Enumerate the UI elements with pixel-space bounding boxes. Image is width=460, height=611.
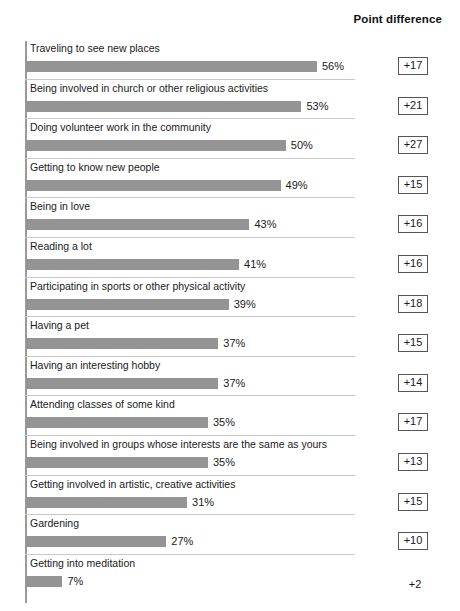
bar-track: 50% — [26, 140, 446, 151]
bar-row: Traveling to see new places56%+17 — [0, 40, 460, 80]
bar-row-label: Being involved in groups whose interests… — [30, 438, 327, 451]
bar-track: 35% — [26, 457, 446, 468]
bar-row-label: Attending classes of some kind — [30, 398, 175, 411]
bar-value-label: 49% — [286, 178, 308, 193]
bar-row: Being involved in church or other religi… — [0, 80, 460, 120]
chart-header: Point difference — [0, 0, 460, 40]
bar — [26, 61, 317, 72]
point-difference-value: +13 — [398, 453, 428, 471]
bar — [26, 536, 166, 547]
bar-value-label: 43% — [254, 217, 276, 232]
bar-row: Being in love43%+16 — [0, 198, 460, 238]
bar — [26, 180, 281, 191]
point-difference-value: +10 — [398, 532, 428, 550]
bar-row-label: Traveling to see new places — [30, 42, 160, 55]
bar-value-label: 31% — [192, 495, 214, 510]
bar-track: 39% — [26, 299, 446, 310]
bar-value-label: 41% — [244, 257, 266, 272]
bar-track: 35% — [26, 417, 446, 428]
bar-value-label: 35% — [213, 415, 235, 430]
bar-row: Getting into meditation7%+2 — [0, 555, 460, 595]
bar-track: 43% — [26, 219, 446, 230]
bar-value-label: 37% — [223, 376, 245, 391]
bar — [26, 101, 301, 112]
bar-track: 31% — [26, 497, 446, 508]
bar-track: 7% — [26, 576, 446, 587]
bar-row: Attending classes of some kind35%+17 — [0, 396, 460, 436]
point-difference-value: +17 — [398, 57, 428, 75]
bar-track: 49% — [26, 180, 446, 191]
bar-row-label: Participating in sports or other physica… — [30, 280, 245, 293]
bar-row-label: Having an interesting hobby — [30, 359, 160, 372]
point-difference-value: +16 — [398, 255, 428, 273]
bar-track: 27% — [26, 536, 446, 547]
point-difference-value: +21 — [398, 97, 428, 115]
bar-value-label: 37% — [223, 336, 245, 351]
bar-chart: Point difference Traveling to see new pl… — [0, 0, 460, 611]
bar — [26, 457, 208, 468]
point-difference-value: +17 — [398, 413, 428, 431]
bar-row-label: Gardening — [30, 517, 79, 530]
bar-row: Getting to know new people49%+15 — [0, 159, 460, 199]
point-difference-value: +15 — [398, 493, 428, 511]
bar — [26, 338, 218, 349]
bar-row: Reading a lot41%+16 — [0, 238, 460, 278]
point-difference-value: +14 — [398, 374, 428, 392]
bar-value-label: 27% — [171, 534, 193, 549]
chart-plot-area: Traveling to see new places56%+17Being i… — [0, 40, 460, 611]
point-difference-column-header: Point difference — [353, 13, 442, 25]
bar-track: 37% — [26, 338, 446, 349]
point-difference-value: +27 — [398, 136, 428, 154]
point-difference-value: +2 — [400, 576, 430, 594]
bar-row-label: Reading a lot — [30, 240, 92, 253]
bar-track: 37% — [26, 378, 446, 389]
bar — [26, 299, 229, 310]
bar-row: Having an interesting hobby37%+14 — [0, 357, 460, 397]
point-difference-value: +18 — [398, 295, 428, 313]
bar-row: Getting involved in artistic, creative a… — [0, 476, 460, 516]
bar-row: Gardening27%+10 — [0, 515, 460, 555]
bar — [26, 140, 286, 151]
bar-row-list: Traveling to see new places56%+17Being i… — [0, 40, 460, 594]
point-difference-value: +16 — [398, 215, 428, 233]
bar-value-label: 56% — [322, 59, 344, 74]
bar-track: 56% — [26, 61, 446, 72]
bar-row-label: Being in love — [30, 200, 90, 213]
bar — [26, 219, 249, 230]
bar-row-label: Being involved in church or other religi… — [30, 82, 268, 95]
bar-row: Having a pet37%+15 — [0, 317, 460, 357]
bar-track: 53% — [26, 101, 446, 112]
point-difference-value: +15 — [398, 176, 428, 194]
bar-value-label: 7% — [67, 574, 83, 589]
bar-value-label: 35% — [213, 455, 235, 470]
bar-row: Being involved in groups whose interests… — [0, 436, 460, 476]
bar-value-label: 53% — [306, 99, 328, 114]
bar-row-label: Having a pet — [30, 319, 89, 332]
bar-value-label: 50% — [291, 138, 313, 153]
bar — [26, 417, 208, 428]
bar-value-label: 39% — [234, 297, 256, 312]
bar — [26, 259, 239, 270]
bar-row: Participating in sports or other physica… — [0, 278, 460, 318]
point-difference-value: +15 — [398, 334, 428, 352]
bar-track: 41% — [26, 259, 446, 270]
bar — [26, 576, 62, 587]
bar — [26, 378, 218, 389]
bar-row-label: Getting into meditation — [30, 557, 135, 570]
bar-row-label: Getting involved in artistic, creative a… — [30, 478, 235, 491]
bar — [26, 497, 187, 508]
bar-row: Doing volunteer work in the community50%… — [0, 119, 460, 159]
bar-row-label: Doing volunteer work in the community — [30, 121, 211, 134]
bar-row-label: Getting to know new people — [30, 161, 160, 174]
